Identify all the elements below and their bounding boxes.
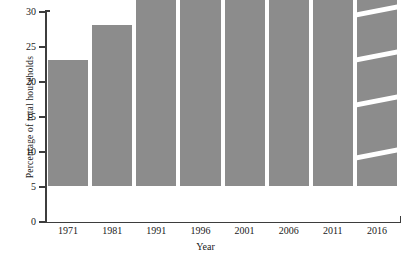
bar-2011 (313, 0, 353, 186)
bars-group (46, 0, 400, 222)
bar-1971 (48, 60, 88, 186)
x-axis-ticklabel-1991: 1991 (134, 226, 178, 236)
y-axis-ticklabel: 25 (0, 42, 36, 52)
bar-1981 (92, 25, 132, 186)
x-axis-ticklabel-2016: 2016 (355, 226, 399, 236)
y-axis-tick (39, 221, 46, 223)
x-axis-ticklabel-1981: 1981 (90, 226, 134, 236)
bar-slash-3 (357, 94, 397, 110)
y-axis-ticklabel: 30 (0, 7, 36, 17)
bar-2006 (269, 0, 309, 186)
y-axis-ticklabel: 0 (0, 217, 36, 227)
y-axis-ticklabel: 10 (0, 147, 36, 157)
bar-slash-1 (357, 3, 397, 19)
y-axis-tick (39, 11, 46, 13)
y-axis-tick (39, 151, 46, 153)
x-axis-ticklabel-2001: 2001 (223, 226, 267, 236)
x-axis-title: Year (0, 241, 411, 252)
bar-2016 (357, 0, 397, 186)
bar-chart: Percentage of total households 051015202… (0, 0, 411, 258)
bar-1996 (180, 0, 220, 186)
bar-2001 (225, 0, 265, 186)
x-axis-ticklabel-1971: 1971 (46, 226, 90, 236)
y-axis-ticklabel: 20 (0, 77, 36, 87)
x-axis-ticklabel-1996: 1996 (178, 226, 222, 236)
bar-1991 (136, 0, 176, 186)
y-axis-tick (39, 116, 46, 118)
y-axis-ticklabel: 15 (0, 112, 36, 122)
y-axis-tick (39, 186, 46, 188)
x-axis-ticklabel-2011: 2011 (311, 226, 355, 236)
x-axis-ticklabel-2006: 2006 (267, 226, 311, 236)
y-axis-tick (39, 81, 46, 83)
y-axis-tick (39, 46, 46, 48)
bar-slash-4 (357, 146, 397, 162)
bar-slash-2 (357, 49, 397, 65)
y-axis-ticklabel: 5 (0, 182, 36, 192)
